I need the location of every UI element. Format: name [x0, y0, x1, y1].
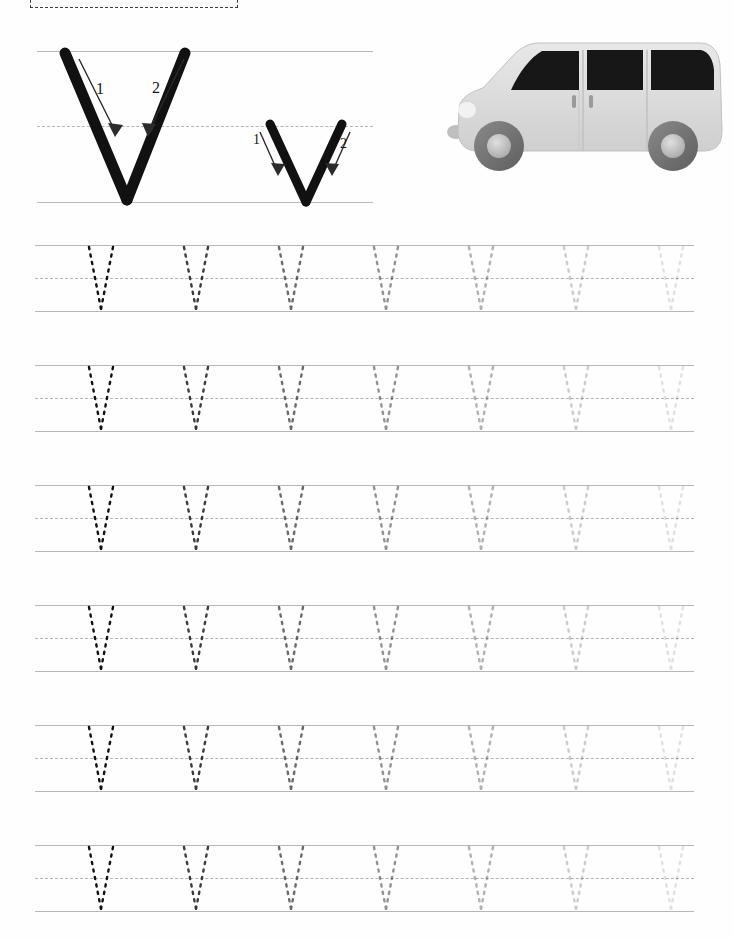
trace-letter-v[interactable]: [181, 245, 211, 313]
lowercase-stroke-label-2: 2: [340, 137, 347, 151]
row-baseline: [35, 671, 694, 672]
trace-letter-v[interactable]: [466, 365, 496, 433]
trace-letter-v[interactable]: [466, 485, 496, 553]
worksheet-page: 1 2 1 2: [0, 0, 734, 940]
row-baseline: [35, 551, 694, 552]
practice-row[interactable]: [35, 365, 694, 435]
door-handle-rear: [589, 95, 593, 108]
row-middle-line: [35, 878, 694, 879]
trace-letter-v[interactable]: [561, 485, 591, 553]
front-hubcap: [487, 134, 511, 158]
trace-letter-v[interactable]: [656, 725, 686, 793]
trace-letter-v[interactable]: [276, 605, 306, 673]
trace-letter-v[interactable]: [276, 725, 306, 793]
trace-letter-v[interactable]: [466, 725, 496, 793]
row-baseline: [35, 791, 694, 792]
trace-letter-v[interactable]: [86, 725, 116, 793]
letter-demo-area: 1 2 1 2: [0, 0, 734, 225]
trace-letter-v[interactable]: [86, 605, 116, 673]
stroke-arrow-1-icon: [79, 59, 123, 137]
uppercase-stroke-label-2: 2: [152, 80, 160, 96]
trace-letter-v[interactable]: [466, 245, 496, 313]
trace-letter-v[interactable]: [181, 365, 211, 433]
trace-letter-v[interactable]: [276, 485, 306, 553]
uppercase-stroke-arrows: [55, 45, 235, 215]
trace-letter-v[interactable]: [86, 845, 116, 913]
trace-letter-v[interactable]: [656, 245, 686, 313]
row-top-line: [35, 245, 694, 246]
trace-letter-v[interactable]: [656, 485, 686, 553]
trace-letter-v[interactable]: [371, 725, 401, 793]
trace-letter-v[interactable]: [371, 245, 401, 313]
middle-window: [587, 50, 643, 90]
row-top-line: [35, 365, 694, 366]
row-baseline: [35, 911, 694, 912]
lowercase-stroke-label-1: 1: [253, 133, 260, 147]
trace-letter-v[interactable]: [181, 485, 211, 553]
row-top-line: [35, 725, 694, 726]
row-top-line: [35, 845, 694, 846]
row-middle-line: [35, 758, 694, 759]
trace-letter-v[interactable]: [276, 365, 306, 433]
door-handle-front: [572, 95, 576, 108]
headlight-icon: [458, 102, 476, 118]
van-illustration: [443, 38, 725, 183]
trace-letter-v[interactable]: [181, 845, 211, 913]
trace-letter-v[interactable]: [561, 725, 591, 793]
trace-letter-v[interactable]: [656, 605, 686, 673]
trace-letter-v[interactable]: [276, 845, 306, 913]
trace-letter-v[interactable]: [561, 605, 591, 673]
row-middle-line: [35, 278, 694, 279]
rear-window: [651, 50, 714, 90]
trace-letter-v[interactable]: [466, 845, 496, 913]
trace-letter-v[interactable]: [86, 485, 116, 553]
row-baseline: [35, 431, 694, 432]
trace-letter-v[interactable]: [86, 365, 116, 433]
lowercase-stroke-arrows: [238, 112, 368, 222]
trace-letter-v[interactable]: [561, 845, 591, 913]
trace-letter-v[interactable]: [656, 845, 686, 913]
row-baseline: [35, 311, 694, 312]
trace-letter-v[interactable]: [561, 365, 591, 433]
rear-hubcap: [661, 134, 685, 158]
trace-letter-v[interactable]: [561, 245, 591, 313]
trace-letter-v[interactable]: [181, 605, 211, 673]
row-top-line: [35, 485, 694, 486]
trace-letter-v[interactable]: [86, 245, 116, 313]
practice-row[interactable]: [35, 845, 694, 915]
trace-letter-v[interactable]: [371, 605, 401, 673]
practice-row[interactable]: [35, 485, 694, 555]
row-middle-line: [35, 398, 694, 399]
practice-row[interactable]: [35, 605, 694, 675]
trace-letter-v[interactable]: [181, 725, 211, 793]
stroke-arrow-2-icon: [142, 59, 184, 137]
trace-letter-v[interactable]: [371, 485, 401, 553]
row-middle-line: [35, 638, 694, 639]
trace-letter-v[interactable]: [466, 605, 496, 673]
row-middle-line: [35, 518, 694, 519]
trace-letter-v[interactable]: [371, 845, 401, 913]
practice-row[interactable]: [35, 725, 694, 795]
uppercase-stroke-label-1: 1: [96, 81, 104, 97]
stroke-arrow-1-icon: [260, 132, 285, 176]
trace-letter-v[interactable]: [656, 365, 686, 433]
row-top-line: [35, 605, 694, 606]
practice-row[interactable]: [35, 245, 694, 315]
trace-letter-v[interactable]: [276, 245, 306, 313]
trace-letter-v[interactable]: [371, 365, 401, 433]
